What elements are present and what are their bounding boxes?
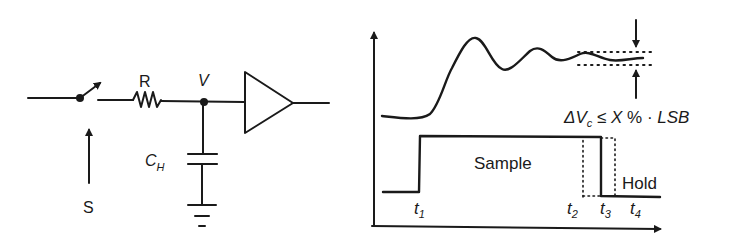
resistor-icon <box>133 92 161 107</box>
switch-arm-icon <box>80 83 100 98</box>
time-mark-t4: t4 <box>630 199 641 220</box>
x-axis-arrow-icon <box>372 226 660 229</box>
hold-phase-label: Hold <box>622 174 657 193</box>
sample-and-hold-diagram: S R V CH <box>0 0 735 248</box>
switch-label: S <box>83 199 94 216</box>
sample-phase-label: Sample <box>474 154 532 173</box>
node-label: V <box>198 72 210 89</box>
resistor-label: R <box>139 73 151 90</box>
settling-condition-label: ΔVc ≤ X % · LSB <box>563 108 689 129</box>
settling-waveform <box>382 38 643 119</box>
uncertainty-right-edge <box>601 138 615 196</box>
time-mark-t2: t2 <box>567 199 578 220</box>
time-mark-t3: t3 <box>600 199 612 220</box>
ground-icon <box>188 205 216 226</box>
time-mark-t1: t1 <box>414 199 425 220</box>
timing-diagram: ΔVc ≤ X % · LSB Sample Hold t1 t2 t3 t4 <box>372 20 689 229</box>
buffer-amplifier-icon <box>245 72 293 133</box>
capacitor-label: CH <box>145 152 165 173</box>
circuit: S R V CH <box>28 72 329 226</box>
